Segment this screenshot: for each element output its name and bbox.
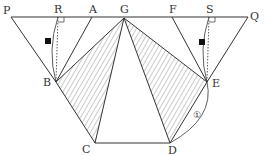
arc-rb [52,17,58,82]
label-s: S [206,3,214,16]
label-r: R [54,3,63,16]
arc-label-1: ① [193,110,201,120]
label-b: B [43,76,51,89]
label-q: Q [250,10,259,23]
dotted-perpendicular-se [207,17,209,82]
label-p: P [3,4,11,17]
segment-pb [11,17,56,82]
right-angle-mark-r [58,17,64,22]
arc-se [203,17,209,82]
label-c: C [82,143,90,156]
label-f: F [169,3,177,16]
label-d: D [168,144,177,156]
filled-square-marker-right [199,39,205,45]
label-e: E [212,77,220,90]
dotted-perpendicular-rb [56,17,58,82]
label-a: A [88,3,98,16]
segment-qe [207,17,248,82]
filled-square-marker-left [45,38,51,44]
hatched-triangle-gbc [56,18,124,143]
right-angle-mark-s [209,17,215,22]
label-g: G [120,3,129,16]
geometry-diagram: P R A G F S Q B E C D ① [0,0,269,156]
